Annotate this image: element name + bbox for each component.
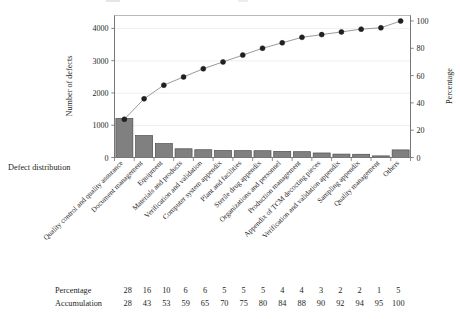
cumulative-marker bbox=[319, 32, 324, 37]
bar bbox=[254, 151, 271, 158]
table-cell-accumulation: 95 bbox=[375, 299, 383, 308]
table-cell-accumulation: 88 bbox=[298, 299, 306, 308]
table-cell-percentage: 10 bbox=[162, 286, 170, 295]
table-cell-accumulation: 70 bbox=[220, 299, 228, 308]
table-cell-accumulation: 92 bbox=[336, 299, 344, 308]
table-cell-accumulation: 84 bbox=[278, 299, 287, 308]
bar bbox=[116, 118, 133, 157]
cumulative-marker bbox=[122, 117, 127, 122]
table-cell-percentage: 4 bbox=[280, 286, 285, 295]
left-tick-label: 2000 bbox=[93, 89, 109, 98]
table-cell-accumulation: 65 bbox=[201, 299, 209, 308]
category-labels: Quality control and quality assuranceDoc… bbox=[41, 158, 401, 242]
bar bbox=[175, 149, 192, 158]
right-axis-tick-labels: 020406080100 bbox=[417, 17, 429, 163]
left-tick-label: 3000 bbox=[93, 57, 109, 66]
table-row-percentage: 281610665554432215 bbox=[124, 286, 401, 295]
table-row-accumulation: 2843535965707580848890929495100 bbox=[124, 299, 405, 308]
left-tick-label: 4000 bbox=[93, 24, 109, 33]
right-tick-label: 40 bbox=[417, 99, 425, 108]
cumulative-marker bbox=[161, 83, 166, 88]
bar bbox=[215, 151, 232, 158]
bar bbox=[136, 136, 153, 158]
right-tick-label: 0 bbox=[417, 154, 421, 163]
right-axis-title: Percentage bbox=[445, 68, 454, 104]
table-cell-percentage: 2 bbox=[338, 286, 342, 295]
table-cell-accumulation: 43 bbox=[143, 299, 151, 308]
pareto-chart-svg: 01000200030004000 Number of defects 0204… bbox=[0, 0, 460, 319]
table-cell-accumulation: 94 bbox=[356, 299, 365, 308]
right-tick-label: 100 bbox=[417, 17, 429, 26]
table-cell-percentage: 4 bbox=[300, 286, 305, 295]
bar bbox=[313, 153, 330, 158]
bar bbox=[274, 151, 291, 157]
table-row-label-accumulation: Accumulation bbox=[55, 299, 103, 308]
table-cell-accumulation: 59 bbox=[182, 299, 190, 308]
cumulative-marker bbox=[260, 46, 265, 51]
cropped-title-remnant bbox=[106, 0, 248, 2]
table-cell-percentage: 5 bbox=[222, 286, 226, 295]
bar bbox=[195, 150, 212, 158]
table-cell-percentage: 28 bbox=[124, 286, 132, 295]
table-cell-percentage: 3 bbox=[319, 286, 323, 295]
table-cell-accumulation: 80 bbox=[259, 299, 267, 308]
bar bbox=[293, 152, 310, 158]
left-tick-label: 1000 bbox=[93, 121, 109, 130]
data-table: Percentage Accumulation 2816106655544322… bbox=[55, 286, 405, 308]
table-cell-percentage: 1 bbox=[377, 286, 381, 295]
table-cell-accumulation: 100 bbox=[392, 299, 404, 308]
cumulative-marker bbox=[240, 53, 245, 58]
cumulative-marker bbox=[181, 74, 186, 79]
pareto-figure: 01000200030004000 Number of defects 0204… bbox=[0, 0, 460, 319]
right-tick-label: 80 bbox=[417, 44, 425, 53]
cumulative-marker bbox=[359, 27, 364, 32]
table-cell-percentage: 16 bbox=[143, 286, 151, 295]
table-cell-percentage: 2 bbox=[358, 286, 362, 295]
table-row-label-percentage: Percentage bbox=[55, 286, 92, 295]
table-cell-accumulation: 90 bbox=[317, 299, 325, 308]
table-cell-accumulation: 75 bbox=[240, 299, 248, 308]
right-tick-label: 20 bbox=[417, 126, 425, 135]
defect-distribution-label: Defect distribution bbox=[8, 163, 71, 172]
table-cell-percentage: 5 bbox=[261, 286, 265, 295]
cumulative-marker bbox=[201, 66, 206, 71]
left-tick-label: 0 bbox=[105, 154, 109, 163]
cumulative-marker bbox=[221, 59, 226, 64]
bar bbox=[234, 151, 251, 158]
plot-frame bbox=[115, 16, 411, 158]
table-cell-percentage: 5 bbox=[396, 286, 400, 295]
bar bbox=[155, 144, 172, 158]
cumulative-marker bbox=[280, 40, 285, 45]
table-cell-percentage: 6 bbox=[184, 286, 188, 295]
right-axis: 020406080100 Percentage bbox=[411, 16, 455, 163]
bar bbox=[333, 154, 350, 157]
table-cell-accumulation: 28 bbox=[124, 299, 132, 308]
right-tick-label: 60 bbox=[417, 72, 425, 81]
category-label: Others bbox=[381, 158, 401, 178]
left-axis-tick-labels: 01000200030004000 bbox=[93, 24, 109, 162]
bar bbox=[392, 150, 409, 158]
cumulative-marker bbox=[339, 29, 344, 34]
cumulative-marker bbox=[142, 96, 147, 101]
cumulative-marker bbox=[378, 25, 383, 30]
cumulative-marker bbox=[299, 35, 304, 40]
cumulative-marker bbox=[398, 18, 403, 23]
left-axis: 01000200030004000 Number of defects bbox=[65, 16, 115, 163]
left-axis-title: Number of defects bbox=[65, 56, 74, 117]
table-cell-accumulation: 53 bbox=[162, 299, 170, 308]
table-cell-percentage: 6 bbox=[203, 286, 207, 295]
table-cell-percentage: 5 bbox=[242, 286, 246, 295]
